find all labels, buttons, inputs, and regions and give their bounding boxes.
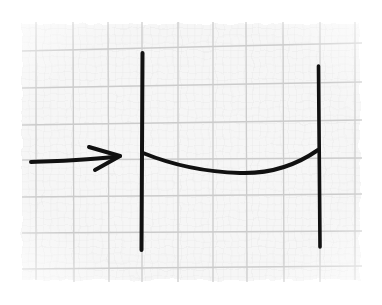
- sketch-svg: [0, 0, 382, 305]
- edge-vignette: [0, 0, 382, 305]
- graph-paper-sketch: Hand-drawn sketch on graph paper: an arr…: [0, 0, 382, 305]
- right-vertical-line: [319, 66, 321, 247]
